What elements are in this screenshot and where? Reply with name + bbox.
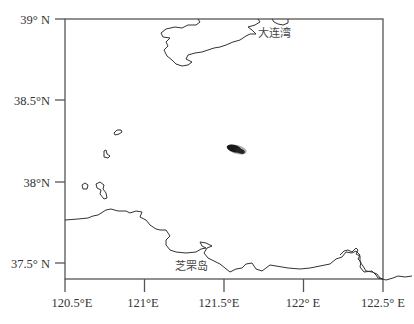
place-label-zhifu-island: 芝罘岛 [175, 259, 208, 273]
x-tick-label: 121.5°E [199, 296, 240, 310]
y-tick-label: 37.5° N [11, 257, 50, 271]
north-coastline-east [272, 19, 288, 25]
south-coastline [65, 209, 412, 280]
x-tick-label: 120.5°E [52, 296, 93, 310]
x-axis: 120.5°E 121°E 121.5°E 122° E 122.5° E [52, 279, 406, 310]
north-coastline [161, 19, 260, 66]
map-frame [65, 19, 383, 279]
x-tick-label: 121°E [127, 296, 159, 310]
island [96, 182, 107, 199]
y-tick-label: 38.5°N [14, 94, 50, 108]
spill-blob [226, 143, 248, 157]
island [82, 183, 88, 189]
y-tick-label: 39° N [20, 13, 50, 27]
y-tick-label: 38°N [23, 176, 50, 190]
island [104, 150, 110, 158]
island [114, 130, 122, 135]
y-axis: 39° N 38.5°N 38°N 37.5° N [11, 13, 65, 271]
x-tick-label: 122.5° E [361, 296, 405, 310]
map-figure: 39° N 38.5°N 38°N 37.5° N 120.5°E 121°E … [0, 0, 414, 324]
place-label-dalian-bay: 大连湾 [258, 26, 291, 40]
x-tick-label: 122° E [286, 296, 321, 310]
south-coastline-east [340, 248, 383, 279]
